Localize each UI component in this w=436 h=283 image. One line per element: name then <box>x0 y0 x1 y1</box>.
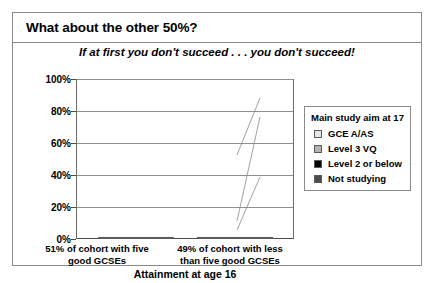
bar2-segment-not-studying <box>197 237 273 239</box>
legend-swatch-not-studying <box>314 175 322 183</box>
y-axis-tickmarks <box>13 79 76 239</box>
legend-item-level-3-vq[interactable]: Level 3 VQ <box>311 143 404 154</box>
legend-label-level-3-vq: Level 3 VQ <box>328 143 377 154</box>
legend-title: Main study aim at 17 <box>311 112 404 123</box>
x-category-label-2: 49% of cohort with less than five good G… <box>165 243 295 267</box>
legend-swatch-gce-a-as <box>314 130 322 138</box>
slide-frame: What about the other 50%? If at first yo… <box>12 12 422 266</box>
gridline-40 <box>77 175 293 176</box>
slide-title-bar: What about the other 50%? <box>13 13 421 43</box>
legend-swatch-level-2-or-below <box>314 160 322 168</box>
legend-item-level-2-or-below[interactable]: Level 2 or below <box>311 158 404 169</box>
stacked-bar-chart: 0% 20% 40% 60% 80% 100% <box>13 65 423 265</box>
gridline-20 <box>77 207 293 208</box>
page-title: What about the other 50%? <box>13 20 198 35</box>
x-category-label-1-line1: 51% of cohort with five <box>32 243 162 255</box>
x-axis-title: Attainment at age 16 <box>76 268 294 280</box>
bar1-segment-not-studying <box>98 237 174 239</box>
x-category-label-1-line2: good GCSEs <box>32 255 162 267</box>
gridline-100 <box>77 79 293 80</box>
x-category-label-1: 51% of cohort with five good GCSEs <box>32 243 162 267</box>
plot-area <box>76 79 294 239</box>
gridline-60 <box>77 143 293 144</box>
legend-item-gce-a-as[interactable]: GCE A/AS <box>311 128 404 139</box>
gridline-80 <box>77 111 293 112</box>
legend-label-gce-a-as: GCE A/AS <box>328 128 374 139</box>
x-category-label-2-line2: than five good GCSEs <box>165 255 295 267</box>
legend-label-level-2-or-below: Level 2 or below <box>328 158 402 169</box>
slide-subtitle: If at first you don't succeed . . . you … <box>13 46 421 58</box>
x-category-label-2-line1: 49% of cohort with less <box>165 243 295 255</box>
legend-item-not-studying[interactable]: Not studying <box>311 173 404 184</box>
y-tickmark-0 <box>71 239 76 240</box>
legend-label-not-studying: Not studying <box>328 173 386 184</box>
chart-legend: Main study aim at 17 GCE A/AS Level 3 VQ… <box>304 106 411 191</box>
legend-swatch-level-3-vq <box>314 145 322 153</box>
